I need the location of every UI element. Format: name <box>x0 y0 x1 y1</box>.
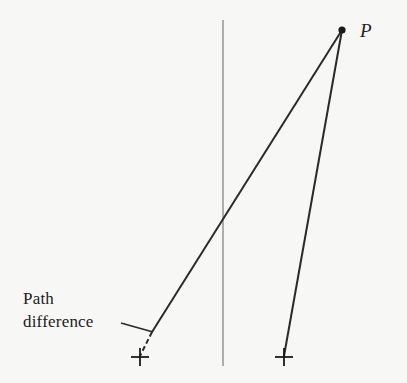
ray-right-source-to-p <box>284 30 342 356</box>
path-difference-label-line1: Path <box>23 290 54 308</box>
path-difference-label-line2: difference <box>23 313 94 331</box>
point-p-dot <box>338 26 345 33</box>
path-difference-dashed-segment <box>140 332 152 356</box>
left-source-cross-icon <box>131 348 149 366</box>
point-p-label: P <box>360 20 372 42</box>
annotation-leader-line <box>121 323 153 332</box>
ray-left-source-to-p <box>152 30 342 332</box>
right-source-cross-icon <box>275 348 293 366</box>
